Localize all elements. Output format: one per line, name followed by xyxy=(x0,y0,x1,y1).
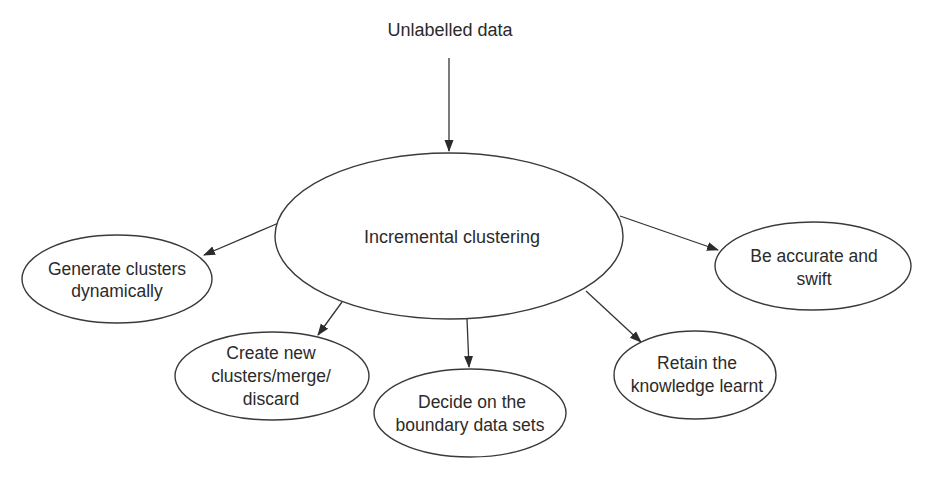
center-label: Incremental clustering xyxy=(364,227,540,247)
create-line-3: discard xyxy=(243,389,299,409)
node-retain-knowledge: Retain the knowledge learnt xyxy=(614,331,776,419)
accurate-line-1: Be accurate and xyxy=(750,246,877,266)
decide-line-2: boundary data sets xyxy=(396,415,545,435)
decide-ellipse xyxy=(374,369,566,457)
create-line-1: Create new xyxy=(226,343,316,363)
create-line-2: clusters/merge/ xyxy=(211,366,331,386)
arrow-center-to-generate xyxy=(204,222,281,255)
retain-line-2: knowledge learnt xyxy=(631,376,763,396)
generate-ellipse xyxy=(22,235,212,323)
source-label: Unlabelled data xyxy=(387,20,513,40)
accurate-ellipse xyxy=(715,222,911,310)
arrow-center-to-retain xyxy=(586,291,641,342)
accurate-line-2: swift xyxy=(797,269,832,289)
node-decide-boundary: Decide on the boundary data sets xyxy=(374,369,566,457)
node-incremental-clustering: Incremental clustering xyxy=(275,153,623,319)
retain-line-1: Retain the xyxy=(657,353,737,373)
decide-line-1: Decide on the xyxy=(418,392,526,412)
arrow-center-to-create xyxy=(318,302,342,335)
retain-ellipse xyxy=(614,331,776,419)
node-generate-clusters: Generate clusters dynamically xyxy=(22,235,212,323)
arrow-center-to-decide xyxy=(467,319,469,367)
node-accurate-swift: Be accurate and swift xyxy=(715,222,911,310)
generate-line-1: Generate clusters xyxy=(48,259,186,279)
arrow-center-to-accurate xyxy=(620,216,718,250)
incremental-clustering-diagram: Unlabelled data Incremental clustering G… xyxy=(0,0,939,478)
generate-line-2: dynamically xyxy=(71,281,163,301)
node-create-new-clusters: Create new clusters/merge/ discard xyxy=(175,332,369,420)
